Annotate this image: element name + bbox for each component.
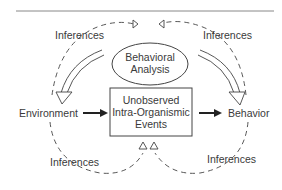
inferences-label-top-left: Inferences [55, 29, 104, 41]
inferences-label-top-right: Inferences [203, 29, 252, 41]
behavioral-analysis-line1: Behavioral [112, 51, 188, 63]
hollow-arrowhead-top-right [159, 20, 164, 28]
inferences-label-bottom-right: Inferences [207, 153, 256, 165]
unobserved-events-line3: Events [110, 118, 192, 130]
arrowhead-environment-to-events [100, 109, 108, 117]
arrowhead-events-to-behavior [214, 109, 222, 117]
hollow-arrowhead-bottom-left [139, 142, 147, 149]
unobserved-events-label: Unobserved Intra-Organismic Events [110, 94, 192, 130]
double-arrow-to-behavior-inner [198, 55, 234, 93]
behavioral-analysis-label: Behavioral Analysis [112, 51, 188, 75]
double-arrow-to-behavior-outer [200, 50, 240, 93]
unobserved-events-line2: Intra-Organismic [110, 106, 192, 118]
inferences-label-bottom-left: Inferences [50, 156, 99, 168]
double-arrow-to-environment-inner [67, 55, 104, 93]
behavior-label: Behavior [228, 107, 269, 119]
hollow-arrowhead-environment [56, 92, 72, 104]
hollow-arrowhead-top-left [133, 20, 138, 28]
double-arrow-to-environment-outer [61, 50, 102, 93]
hollow-arrowhead-bottom-right [150, 142, 158, 149]
hollow-arrowhead-behavior [229, 92, 245, 105]
behavioral-analysis-line2: Analysis [112, 63, 188, 75]
environment-label: Environment [19, 107, 78, 119]
unobserved-events-line1: Unobserved [110, 94, 192, 106]
